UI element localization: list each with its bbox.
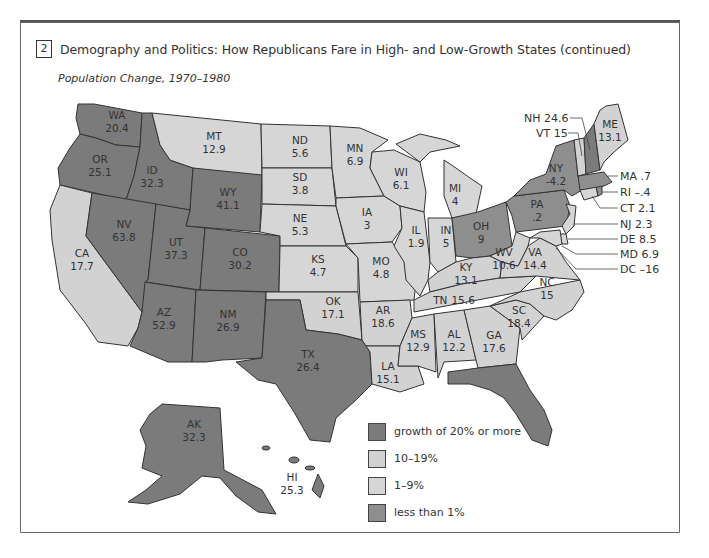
svg-text:SD3.8: SD3.8 [292, 171, 309, 196]
map-legend: growth of 20% or more 10–19% 1–9% less t… [368, 418, 521, 526]
legend-swatch-low [368, 477, 386, 495]
us-choropleth-map: WA20.4 OR25.1 CA17.7 ID32.3 NV63.8 MT12.… [0, 0, 709, 558]
svg-text:KS4.7: KS4.7 [310, 253, 327, 278]
callout-RI: RI –.4 [620, 186, 650, 199]
callout-MD: MD 6.9 [620, 248, 659, 261]
svg-text:NM26.9: NM26.9 [216, 308, 239, 333]
callout-NH: NH 24.6 [524, 112, 569, 125]
svg-text:MO4.8: MO4.8 [372, 255, 389, 280]
svg-text:NC15: NC15 [539, 276, 554, 301]
svg-text:WV10.6: WV10.6 [492, 246, 516, 271]
legend-swatch-mid [368, 450, 386, 468]
state-HI[interactable] [312, 474, 324, 498]
state-HI-islands[interactable] [289, 457, 299, 463]
svg-text:ND5.6: ND5.6 [292, 134, 309, 159]
callout-NJ: NJ 2.3 [620, 218, 652, 231]
callout-CT: CT 2.1 [620, 202, 655, 215]
callout-MA: MA .7 [620, 170, 651, 183]
state-HI-islands[interactable] [262, 446, 270, 450]
legend-item-neg: less than 1% [368, 499, 521, 526]
legend-item-low: 1–9% [368, 472, 521, 499]
legend-swatch-neg [368, 504, 386, 522]
svg-text:WA20.4: WA20.4 [105, 109, 129, 134]
legend-item-high: growth of 20% or more [368, 418, 521, 445]
state-AK[interactable] [128, 404, 276, 514]
svg-text:NE5.3: NE5.3 [292, 212, 309, 237]
legend-swatch-high [368, 423, 386, 441]
svg-text:WI6.1: WI6.1 [393, 166, 410, 191]
legend-item-mid: 10–19% [368, 445, 521, 472]
svg-text:MN6.9: MN6.9 [347, 142, 364, 167]
svg-text:HI25.3: HI25.3 [280, 471, 303, 496]
svg-text:TN15.6: TN15.6 [432, 294, 475, 306]
callout-VT: VT 15 [536, 127, 568, 140]
callout-DE: DE 8.5 [620, 233, 656, 246]
state-HI-islands[interactable] [305, 466, 315, 470]
svg-text:WY41.1: WY41.1 [216, 186, 239, 211]
state-ND[interactable] [261, 124, 332, 168]
callout-DC: DC –16 [620, 263, 659, 276]
